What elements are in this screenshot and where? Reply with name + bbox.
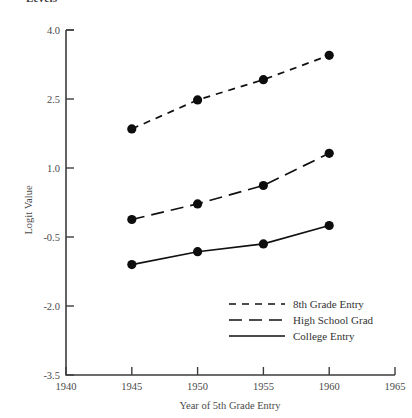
legend-item[interactable]: 8th Grade Entry	[228, 296, 403, 312]
x-tick-label: 1960	[319, 381, 340, 392]
legend-item[interactable]: High School Grad	[228, 312, 403, 328]
data-point-marker	[325, 51, 334, 60]
y-tick-label: 1.0	[47, 163, 60, 174]
data-point-marker	[325, 221, 334, 230]
series-line-0	[132, 55, 329, 129]
data-point-marker	[259, 75, 268, 84]
y-tick-label: -0.5	[43, 232, 60, 243]
data-point-marker	[193, 247, 202, 256]
series-line-1	[132, 153, 329, 219]
legend-label: High School Grad	[293, 314, 373, 326]
data-point-marker	[127, 260, 136, 269]
x-tick-label: 1940	[56, 381, 77, 392]
y-tick-label: -3.5	[43, 370, 60, 381]
x-tick-label: 1965	[385, 381, 406, 392]
x-axis-title: Year of 5th Grade Entry	[180, 400, 282, 411]
y-tick-label: 2.5	[47, 94, 60, 105]
x-tick-label: 1945	[121, 381, 142, 392]
data-point-marker	[127, 124, 136, 133]
chart-series-group	[127, 51, 334, 270]
legend-label: 8th Grade Entry	[293, 298, 364, 310]
data-point-marker	[193, 95, 202, 104]
chart-legend: 8th Grade EntryHigh School GradCollege E…	[228, 296, 403, 344]
legend-swatch-solid	[228, 329, 286, 343]
data-point-marker	[127, 215, 136, 224]
data-point-marker	[259, 239, 268, 248]
y-axis-title: Logit Value	[23, 185, 34, 234]
y-tick-label: -2.0	[43, 301, 60, 312]
x-tick-label: 1955	[253, 381, 274, 392]
legend-label: College Entry	[293, 330, 354, 342]
data-point-marker	[259, 181, 268, 190]
x-tick-label: 1950	[187, 381, 208, 392]
legend-item[interactable]: College Entry	[228, 328, 403, 344]
data-point-marker	[325, 149, 334, 158]
series-line-2	[132, 226, 329, 265]
y-tick-label: 4.0	[47, 25, 60, 36]
line-chart-plot: 4.02.51.0-0.5-2.0-3.51940194519501955196…	[0, 0, 412, 418]
chart-page: Levels 4.02.51.0-0.5-2.0-3.5194019451950…	[0, 0, 412, 418]
legend-swatch-dash-short	[228, 297, 286, 311]
data-point-marker	[193, 199, 202, 208]
legend-swatch-dash-long	[228, 313, 286, 327]
